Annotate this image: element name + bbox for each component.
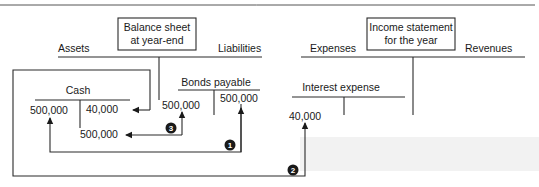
revenues-label: Revenues xyxy=(465,42,512,54)
balance-sheet-title-line1: Balance sheet xyxy=(124,21,191,33)
interest-expense-account: Interest expense 40,000 xyxy=(289,81,405,122)
income-statement: Income statement for the year Expenses R… xyxy=(301,18,525,115)
liabilities-label: Liabilities xyxy=(218,42,261,54)
bonds-payable-account: Bonds payable 500,000 500,000 xyxy=(162,76,260,115)
bonds-payable-credit-value: 500,000 xyxy=(220,92,258,104)
expenses-label: Expenses xyxy=(310,42,356,54)
cash-debit-value: 500,000 xyxy=(30,104,68,116)
interest-expense-debit-value: 40,000 xyxy=(289,110,321,122)
balance-sheet-title-line2: at year-end xyxy=(130,34,183,46)
income-statement-title-line2: for the year xyxy=(384,34,438,46)
interest-expense-account-name: Interest expense xyxy=(302,81,380,93)
step-badge-1-label: 1 xyxy=(228,141,233,150)
step-badge-1: 1 xyxy=(225,140,236,151)
flow-1-arrow xyxy=(50,104,241,152)
background-band xyxy=(300,137,539,171)
cash-account-name: Cash xyxy=(66,84,91,96)
cash-credit-value: 40,000 xyxy=(86,103,118,115)
step-badge-3-label: 3 xyxy=(169,124,174,133)
step-badge-2: 2 xyxy=(288,165,299,176)
step-badge-2-label: 2 xyxy=(291,166,296,175)
step-badge-3: 3 xyxy=(166,123,177,134)
bonds-payable-account-name: Bonds payable xyxy=(181,76,251,88)
cash-account: Cash 500,000 40,000 500,000 xyxy=(30,84,130,140)
cash-credit-value-2: 500,000 xyxy=(80,128,118,140)
income-statement-title-line1: Income statement xyxy=(369,21,453,33)
bonds-payable-debit-value: 500,000 xyxy=(162,99,200,111)
bond-accounting-diagram: Balance sheet at year-end Assets Liabili… xyxy=(0,0,539,187)
assets-label: Assets xyxy=(58,42,90,54)
